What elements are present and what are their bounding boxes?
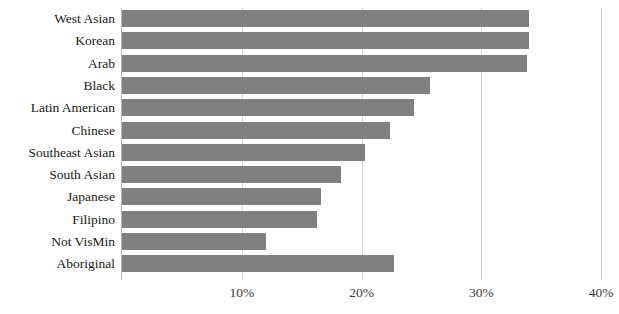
category-label: Southeast Asian [0, 144, 115, 161]
category-label: Japanese [0, 188, 115, 205]
category-label: Latin American [0, 99, 115, 116]
bar [122, 255, 394, 272]
bar [122, 144, 365, 161]
bar [122, 32, 529, 49]
plot-area [122, 8, 619, 280]
bar [122, 122, 390, 139]
value-tick-label: 40% [589, 285, 614, 301]
category-label: West Asian [0, 10, 115, 27]
category-label: Korean [0, 32, 115, 49]
gridline [601, 8, 602, 280]
value-tick-label: 20% [349, 285, 374, 301]
category-label: Filipino [0, 211, 115, 228]
bar [122, 99, 414, 116]
bar [122, 211, 317, 228]
bar [122, 166, 341, 183]
category-axis: West AsianKoreanArabBlackLatin AmericanC… [0, 10, 115, 278]
category-label: Aboriginal [0, 255, 115, 272]
bar [122, 188, 321, 205]
bar [122, 233, 266, 250]
category-label: Not VisMin [0, 233, 115, 250]
bar [122, 10, 529, 27]
value-tick-label: 10% [229, 285, 254, 301]
bar-chart: West AsianKoreanArabBlackLatin AmericanC… [0, 0, 619, 314]
category-label: South Asian [0, 166, 115, 183]
category-label: Arab [0, 55, 115, 72]
category-label: Black [0, 77, 115, 94]
bar [122, 77, 430, 94]
value-tick-label: 30% [469, 285, 494, 301]
value-axis-ticks: 10%20%30%40% [122, 285, 619, 309]
bar [122, 55, 527, 72]
category-label: Chinese [0, 122, 115, 139]
